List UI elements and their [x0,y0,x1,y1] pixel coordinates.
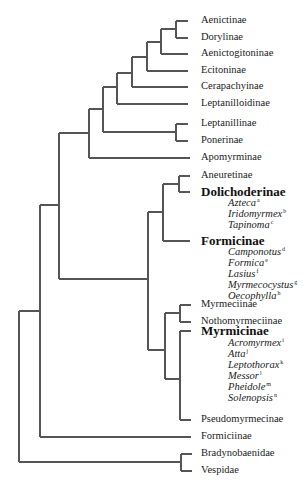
taxon-label-myrmicinae: Myrmicinae [201,324,269,337]
reference-superscript: h [277,290,280,296]
reference-superscript: k [280,359,283,365]
taxon-label-ponerinae: Ponerinae [201,135,243,146]
genus-name: Acromyrmex [228,337,281,348]
genus-label: Oecophyllah [228,290,280,302]
taxon-label-aenictinae: Aenictinae [201,15,246,26]
genus-name: Messor [228,370,259,381]
taxon-label-dorylinae: Dorylinae [201,32,243,43]
genus-name: Pheidole [228,381,265,392]
reference-superscript: b [283,208,286,214]
genus-name: Formica [228,257,264,268]
reference-superscript: l [260,370,262,376]
genus-label: Acromyrmexi [228,337,284,349]
reference-superscript: d [282,246,285,252]
genus-label: Lasiusf [228,268,258,280]
taxon-label-aneuretinae: Aneuretinae [201,170,252,181]
genus-name: Iridomyrmex [228,208,282,219]
genus-label: Aztecaa [228,197,260,209]
taxon-label-cerapachyinae: Cerapachyinae [201,81,263,92]
genus-name: Camponotus [228,246,281,257]
genus-label: Attaj [228,348,248,360]
genus-label: Iridomyrmexb [228,208,286,220]
taxon-label-apomyrminae: Apomyrminae [201,152,262,163]
genus-name: Lasius [228,268,255,279]
genus-name: Azteca [228,197,256,208]
genus-name: Tapinoma [228,219,270,230]
taxon-label-aenictogitoninae: Aenictogitoninae [201,48,273,59]
taxon-label-leptanilloidinae: Leptanilloidinae [201,98,270,109]
reference-superscript: f [256,268,258,274]
taxon-label-leptanillinae: Leptanillinae [201,118,256,129]
genus-label: Solenopsisn [228,392,277,404]
genus-label: Camponotusd [228,246,285,258]
taxon-label-dolichoderinae: Dolichoderinae [201,185,286,198]
genus-name: Solenopsis [228,392,273,403]
genus-label: Leptothoraxk [228,359,283,371]
taxon-label-ecitoninae: Ecitoninae [201,65,246,76]
taxon-label-formicinae: Formicinae [201,234,265,247]
genus-label: Tapinomac [228,219,273,231]
reference-superscript: e [265,257,268,263]
taxon-label-formiciinae: Formiciinae [201,431,252,442]
genus-name: Atta [228,348,246,359]
reference-superscript: m [266,381,271,387]
reference-superscript: i [282,337,284,343]
taxon-label-vespidae: Vespidae [201,465,239,476]
genus-label: Formicae [228,257,268,269]
genus-name: Oecophylla [228,290,276,301]
reference-superscript: j [247,348,249,354]
genus-label: Myrmecocystusg [228,279,297,291]
reference-superscript: c [271,219,274,225]
genus-name: Myrmecocystus [228,279,293,290]
reference-superscript: n [274,392,277,398]
reference-superscript: g [294,279,297,285]
taxon-label-bradynobaenidae: Bradynobaenidae [201,448,274,459]
taxon-label-pseudomyrmecinae: Pseudomyrmecinae [201,414,283,425]
reference-superscript: a [257,197,260,203]
genus-label: Messorl [228,370,262,382]
genus-name: Leptothorax [228,359,279,370]
genus-label: Pheidolem [228,381,271,393]
